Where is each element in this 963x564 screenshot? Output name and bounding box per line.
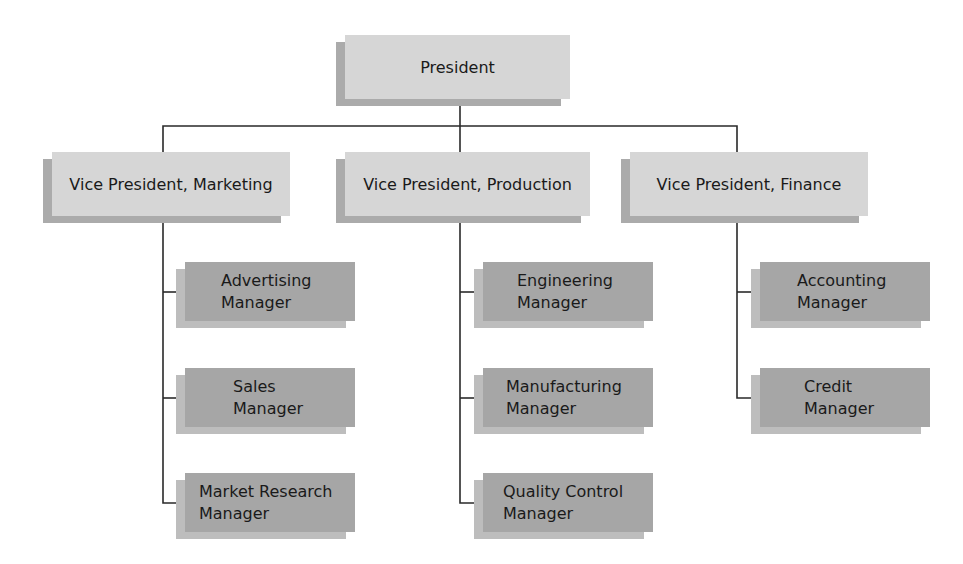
connector-production-stem — [460, 216, 483, 503]
node-label: Market Research Manager — [199, 481, 332, 525]
node-vp-marketing: Vice President, Marketing — [52, 152, 290, 216]
node-label: Vice President, Marketing — [69, 175, 272, 194]
connector-vp-bus — [163, 126, 737, 152]
node-market-research-manager: Market Research Manager — [185, 473, 355, 532]
node-label: Vice President, Production — [363, 175, 572, 194]
box-face: Vice President, Finance — [630, 152, 868, 216]
connector-marketing-stem — [163, 216, 185, 503]
box-face: Advertising Manager — [185, 262, 355, 321]
box-face: President — [345, 35, 570, 99]
org-chart: President Vice President, Marketing Vice… — [0, 0, 963, 564]
box-face: Manufacturing Manager — [483, 368, 653, 427]
node-label: Manufacturing Manager — [506, 376, 622, 420]
box-face: Vice President, Marketing — [52, 152, 290, 216]
node-president: President — [345, 35, 570, 99]
node-vp-production: Vice President, Production — [345, 152, 590, 216]
box-face: Credit Manager — [760, 368, 930, 427]
node-manufacturing-manager: Manufacturing Manager — [483, 368, 653, 427]
node-advertising-manager: Advertising Manager — [185, 262, 355, 321]
node-vp-finance: Vice President, Finance — [630, 152, 868, 216]
node-sales-manager: Sales Manager — [185, 368, 355, 427]
node-accounting-manager: Accounting Manager — [760, 262, 930, 321]
node-label: Advertising Manager — [221, 270, 312, 314]
node-label: Quality Control Manager — [503, 481, 623, 525]
node-label: Credit Manager — [804, 376, 874, 420]
box-face: Sales Manager — [185, 368, 355, 427]
node-quality-control-manager: Quality Control Manager — [483, 473, 653, 532]
node-label: President — [420, 58, 495, 77]
node-credit-manager: Credit Manager — [760, 368, 930, 427]
node-label: Accounting Manager — [797, 270, 886, 314]
box-face: Market Research Manager — [185, 473, 355, 532]
node-label: Vice President, Finance — [657, 175, 842, 194]
node-label: Sales Manager — [233, 376, 303, 420]
node-engineering-manager: Engineering Manager — [483, 262, 653, 321]
box-face: Vice President, Production — [345, 152, 590, 216]
box-face: Quality Control Manager — [483, 473, 653, 532]
box-face: Accounting Manager — [760, 262, 930, 321]
node-label: Engineering Manager — [517, 270, 613, 314]
box-face: Engineering Manager — [483, 262, 653, 321]
